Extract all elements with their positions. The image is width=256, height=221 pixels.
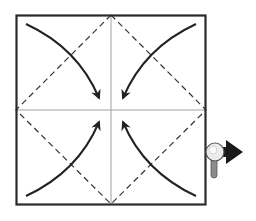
center-creases (16, 15, 206, 204)
arrow-bottom-left-icon (26, 122, 99, 196)
arrow-top-right-icon (123, 24, 196, 98)
arrow-bottom-right-icon (123, 122, 196, 196)
arrow-top-left-icon (26, 24, 99, 98)
origami-diagram (0, 0, 256, 221)
magnifier-icon[interactable] (206, 140, 243, 178)
